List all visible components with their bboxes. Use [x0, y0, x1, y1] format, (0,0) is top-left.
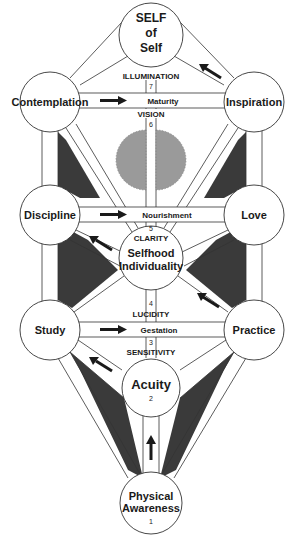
arrow-upleft-study-icon: [89, 357, 112, 371]
clarity-number: 5: [149, 225, 153, 232]
vision-number: 6: [149, 121, 153, 128]
practice-label: Practice: [233, 324, 276, 336]
physical-number: 1: [149, 518, 153, 525]
maturity-label: Maturity: [147, 97, 179, 106]
arrow-upleft-inspiration-icon: [199, 64, 221, 78]
lucidity-number: 4: [149, 300, 153, 307]
love-label: Love: [241, 209, 267, 221]
sensitivity-label: SENSITIVITY: [127, 348, 177, 357]
gestation-label: Gestation: [141, 326, 178, 335]
illumination-label: ILLUMINATION: [123, 72, 180, 81]
acuity-label: Acuity: [131, 377, 172, 392]
nourishment-label: Nourishment: [142, 211, 192, 220]
clarity-label: CLARITY: [134, 234, 169, 243]
self-line2: of: [145, 26, 157, 40]
vision-gray-circle: [116, 130, 186, 190]
inspiration-label: Inspiration: [226, 96, 283, 108]
tree-of-life-diagram: SELF of Self Contemplation Inspiration D…: [0, 0, 302, 543]
self-line1: SELF: [136, 11, 167, 25]
illumination-number: 7: [149, 83, 153, 90]
arrow-upleft-practice-icon: [197, 293, 219, 307]
contemplation-label: Contemplation: [12, 96, 89, 108]
physical-line2: Awareness: [122, 502, 180, 514]
lucidity-label: LUCIDITY: [133, 310, 171, 319]
sensitivity-number: 3: [149, 339, 153, 346]
discipline-label: Discipline: [24, 209, 76, 221]
arrow-up-physical-icon: [146, 435, 156, 460]
vision-label: VISION: [137, 110, 164, 119]
study-label: Study: [35, 324, 66, 336]
acuity-number: 2: [149, 395, 153, 402]
selfhood-line2: Individuality: [119, 260, 184, 272]
physical-line1: Physical: [129, 490, 174, 502]
selfhood-line1: Selfhood: [127, 247, 174, 259]
self-line3: Self: [140, 41, 163, 55]
